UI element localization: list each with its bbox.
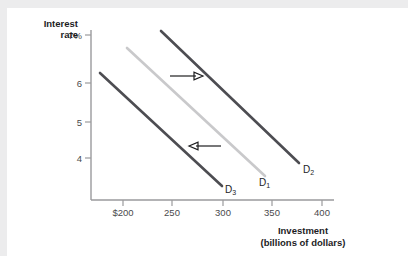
x-axis-title: Investment (billions of dollars) (261, 225, 346, 248)
demand-curve-d3-label: D3 (225, 184, 236, 196)
investment-demand-chart: 7% 6 5 4 $200 250 300 350 400 Interest r… (0, 0, 408, 256)
y-axis-title-line1: Interest (44, 18, 79, 29)
x-tick-label: 400 (314, 207, 330, 218)
rightward-shift-arrow (170, 72, 203, 80)
demand-curve-d3-label-sub: 3 (232, 189, 236, 196)
leftward-shift-arrow (189, 142, 221, 150)
y-tick-label: 5 (77, 117, 82, 128)
demand-curve-d2-label-sub: 2 (310, 169, 314, 176)
demand-curve-d1-label: D1 (259, 177, 270, 189)
y-axis-title: Interest rate (44, 18, 79, 40)
demand-curve-d1-label-main: D (259, 177, 266, 188)
x-tick-label: $200 (112, 207, 133, 218)
x-tick-group: $200 250 300 350 400 (112, 200, 330, 218)
y-tick-label: 4 (77, 153, 82, 164)
y-axis-title-line2: rate (61, 29, 78, 40)
x-axis-title-sub: (billions of dollars) (261, 237, 346, 248)
x-axis-title-main: Investment (278, 225, 329, 236)
x-tick-label: 300 (215, 207, 231, 218)
y-tick-label: 6 (77, 78, 82, 89)
demand-curve-d3-label-main: D (225, 184, 232, 195)
y-tick-group: 7% 6 5 4 (68, 30, 91, 164)
demand-curve-d2-label: D2 (303, 164, 314, 176)
x-tick-label: 250 (164, 207, 180, 218)
x-tick-label: 350 (264, 207, 280, 218)
demand-curve-d1-label-sub: 1 (266, 182, 270, 189)
demand-curve-d3 (100, 73, 222, 186)
demand-curve-d2-label-main: D (303, 164, 310, 175)
